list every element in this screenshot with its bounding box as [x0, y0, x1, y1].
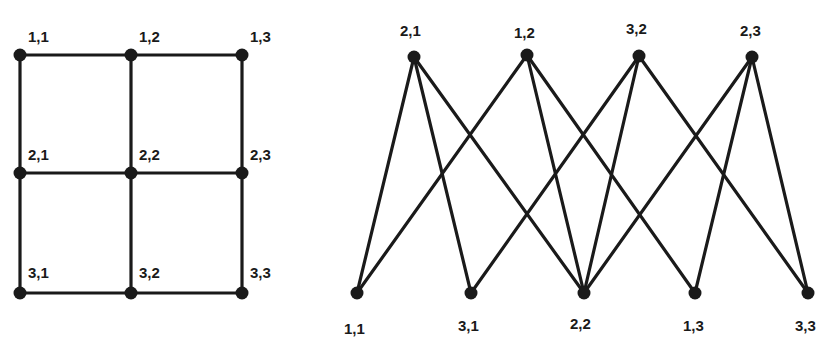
grid-node-label: 2,2	[139, 146, 160, 163]
bipartite-graph: 2,11,23,22,31,13,12,21,33,3	[344, 20, 816, 337]
bipartite-node-label: 1,1	[344, 320, 365, 337]
grid-node-label: 2,1	[28, 146, 49, 163]
grid-node-2-2	[125, 167, 138, 180]
bipartite-edge	[584, 56, 639, 293]
grid-graph: 1,11,21,32,12,22,33,13,23,3	[14, 28, 271, 300]
bipartite-node-label: 1,3	[683, 317, 704, 334]
bipartite-node-label: 1,2	[514, 24, 535, 41]
bipartite-node-3-2	[633, 50, 646, 63]
grid-node-1-3	[236, 49, 249, 62]
bipartite-edge	[357, 57, 414, 293]
grid-node-3-3	[236, 287, 249, 300]
grid-node-label: 1,1	[28, 28, 49, 45]
bipartite-node-label: 3,3	[795, 317, 816, 334]
bipartite-edge	[695, 57, 752, 293]
bipartite-node-2-1	[408, 51, 421, 64]
grid-node-3-1	[14, 287, 27, 300]
grid-node-label: 3,3	[250, 264, 271, 281]
grid-graph-labels: 1,11,21,32,12,22,33,13,23,3	[28, 28, 271, 281]
grid-node-label: 3,2	[139, 264, 160, 281]
bipartite-node-label: 2,2	[570, 315, 591, 332]
bipartite-graph-edges	[357, 55, 808, 293]
bipartite-edge	[752, 57, 808, 293]
bipartite-node-1-2	[521, 49, 534, 62]
grid-node-label: 3,1	[28, 264, 49, 281]
bipartite-node-label: 3,1	[458, 317, 479, 334]
bipartite-edge	[357, 55, 527, 293]
grid-node-2-1	[14, 167, 27, 180]
bipartite-node-2-2	[578, 287, 591, 300]
grid-node-label: 2,3	[250, 146, 271, 163]
bipartite-node-3-3	[802, 287, 815, 300]
grid-node-1-2	[125, 49, 138, 62]
bipartite-edge	[584, 57, 752, 293]
grid-node-3-2	[125, 287, 138, 300]
grid-node-label: 1,3	[250, 28, 271, 45]
bipartite-node-label: 3,2	[626, 20, 647, 37]
grid-node-2-3	[236, 167, 249, 180]
bipartite-node-label: 2,1	[400, 22, 421, 39]
bipartite-edge	[471, 56, 639, 293]
bipartite-node-3-1	[465, 287, 478, 300]
bipartite-node-1-3	[689, 287, 702, 300]
bipartite-node-1-1	[351, 287, 364, 300]
graph-diagram: 1,11,21,32,12,22,33,13,23,3 2,11,23,22,3…	[0, 0, 831, 354]
grid-node-1-1	[14, 49, 27, 62]
grid-node-label: 1,2	[139, 28, 160, 45]
bipartite-node-label: 2,3	[740, 22, 761, 39]
bipartite-node-2-3	[746, 51, 759, 64]
